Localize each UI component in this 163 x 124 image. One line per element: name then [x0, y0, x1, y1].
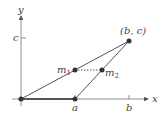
point-origin: [19, 97, 24, 102]
point-bc: [127, 39, 132, 44]
point-a: [73, 97, 78, 102]
triangle-midpoint-diagram: y x c a b (b, c) m1 m2: [0, 0, 163, 124]
point-m2: [100, 68, 105, 73]
x-axis-label: x: [152, 93, 158, 104]
y-axis-label: y: [17, 4, 24, 15]
point-label-bc: (b, c): [120, 25, 146, 36]
point-m1: [73, 68, 78, 73]
tick-label-b: b: [126, 102, 132, 113]
point-label-m2: m2: [105, 67, 119, 80]
tick-label-c: c: [13, 32, 19, 43]
tick-label-a: a: [72, 102, 78, 113]
point-label-m1: m1: [57, 64, 71, 77]
